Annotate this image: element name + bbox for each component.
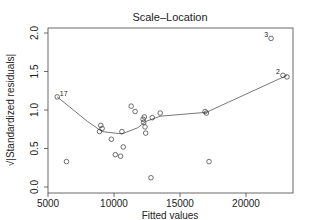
data-point	[141, 120, 146, 125]
smooth-trend-line	[57, 75, 287, 133]
data-point	[285, 75, 290, 80]
y-tick-label: 0.0	[29, 180, 40, 194]
point-label: 3	[264, 31, 268, 38]
y-axis: 0.00.51.01.52.0	[29, 26, 48, 194]
data-point	[158, 111, 163, 116]
x-tick-label: 5000	[37, 198, 60, 209]
x-axis-label: Fitted values	[142, 210, 199, 220]
data-point	[118, 154, 123, 159]
data-point	[143, 125, 148, 130]
scale-location-chart: Scale–Location 0.00.51.01.52.0 500010000…	[0, 0, 309, 220]
data-point	[207, 159, 212, 164]
data-point	[269, 36, 274, 41]
data-points: 1732	[55, 31, 289, 180]
data-point	[129, 104, 134, 109]
data-point	[143, 131, 148, 136]
data-point	[109, 137, 114, 142]
data-point	[113, 152, 118, 157]
plot-frame	[48, 28, 293, 193]
y-tick-label: 1.5	[29, 64, 40, 78]
data-point	[121, 145, 126, 150]
point-label: 17	[60, 90, 68, 97]
y-axis-label: √|Standardized residuals|	[5, 54, 16, 166]
data-point	[133, 109, 138, 114]
y-tick-label: 1.0	[29, 103, 40, 117]
y-tick-label: 2.0	[29, 26, 40, 40]
data-point	[149, 175, 154, 180]
x-tick-label: 20000	[232, 198, 260, 209]
x-axis: 5000100001500020000	[37, 193, 260, 209]
x-tick-label: 15000	[166, 198, 194, 209]
data-point	[64, 159, 69, 164]
x-tick-label: 10000	[100, 198, 128, 209]
data-point	[120, 129, 125, 134]
y-tick-label: 0.5	[29, 141, 40, 155]
point-label: 2	[276, 68, 280, 75]
chart-title: Scale–Location	[132, 11, 207, 23]
